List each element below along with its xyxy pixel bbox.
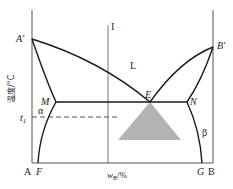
label-B-prime: B' — [217, 40, 226, 51]
label-I: I — [111, 21, 114, 32]
label-A: A — [24, 166, 32, 177]
solidus-right — [187, 47, 213, 102]
label-F: F — [35, 166, 43, 177]
label-B: B — [208, 166, 215, 177]
label-beta: β — [202, 127, 207, 138]
label-L: L — [130, 60, 136, 71]
y-axis-label: 温度/°C — [6, 74, 16, 103]
label-A-prime: A' — [15, 33, 25, 44]
shaded-triangle — [118, 102, 181, 140]
phase-diagram: A' B' I L E M N α β t1 A F G B wB/% 温度/°… — [0, 0, 233, 189]
label-G: G — [197, 166, 204, 177]
label-alpha: α — [38, 105, 44, 116]
label-E: E — [144, 89, 151, 100]
x-axis-label: wB/% — [107, 170, 128, 181]
label-N: N — [189, 96, 198, 107]
liquidus-right — [150, 47, 213, 102]
solvus-right — [187, 102, 202, 163]
solidus-left — [32, 39, 56, 102]
label-t1: t1 — [20, 112, 26, 125]
